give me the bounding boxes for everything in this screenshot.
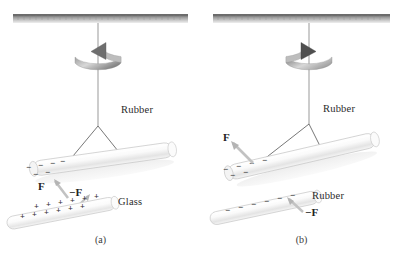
svg-text:+: + [32, 209, 37, 219]
svg-text:+: + [68, 203, 73, 213]
svg-text:−: − [26, 162, 31, 172]
rubber-rod-suspended-b [223, 131, 384, 193]
svg-text:−: − [238, 202, 243, 212]
footer-cut-text [0, 250, 402, 258]
svg-text:−: − [236, 161, 241, 171]
svg-text:−: − [264, 196, 269, 206]
panel-b: − − − − − − − − − − [201, 0, 402, 258]
svg-text:−: − [277, 193, 282, 203]
svg-text:−: − [262, 155, 267, 165]
force-label-minus-f-a: −F [69, 186, 82, 198]
panel-a: − − − − − − [0, 0, 201, 258]
panel-b-graphic: − − − − − − − − − − [201, 0, 402, 258]
panel-caption-a: (a) [0, 234, 201, 245]
svg-text:−: − [60, 156, 65, 166]
rubber-label-a: Rubber [121, 104, 153, 115]
svg-text:−: − [223, 164, 228, 174]
physics-figure: − − − − − − [0, 0, 402, 258]
svg-text:−: − [290, 190, 295, 200]
force-arrow-f-b [231, 141, 253, 163]
svg-text:−: − [38, 160, 43, 170]
panel-caption-b: (b) [201, 234, 402, 245]
panel-a-graphic: − − − − − − [0, 0, 201, 258]
svg-text:−: − [45, 167, 50, 177]
svg-text:+: + [44, 207, 49, 217]
force-label-minus-f-b: −F [305, 206, 318, 218]
force-label-f-a: F [38, 180, 45, 192]
svg-text:−: − [33, 169, 38, 179]
svg-text:−: − [243, 167, 248, 177]
svg-text:−: − [50, 158, 55, 168]
svg-text:+: + [20, 211, 25, 221]
rubber-label-suspended-b: Rubber [323, 103, 355, 114]
svg-text:+: + [56, 205, 61, 215]
glass-label-a: Glass [118, 196, 142, 207]
svg-text:+: + [80, 201, 85, 211]
ceiling-support-b [213, 14, 390, 23]
ceiling-support-a [13, 14, 188, 23]
svg-text:−: − [251, 199, 256, 209]
force-label-f-b: F [223, 131, 230, 143]
svg-text:−: − [230, 170, 235, 180]
svg-text:−: − [225, 205, 230, 215]
svg-text:+: + [94, 191, 99, 201]
rubber-label-handheld-b: Rubber [312, 190, 344, 201]
